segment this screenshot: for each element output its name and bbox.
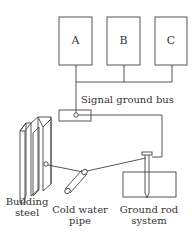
- cold-water-pipe-label-2: pipe: [50, 215, 110, 226]
- box-c-label: C: [155, 35, 187, 46]
- building-steel-label-2: steel: [4, 207, 50, 218]
- cold-water-pipe-icon: [64, 168, 89, 195]
- ground-rod-box: [123, 172, 176, 197]
- box-b-label: B: [107, 35, 140, 46]
- building-steel-label-1: Building: [4, 196, 50, 207]
- box-a-label: A: [59, 35, 92, 46]
- cold-water-pipe-label-1: Cold water: [50, 204, 110, 215]
- ground-rod-label-1: Ground rod: [118, 204, 180, 215]
- signal-ground-bus-label: Signal ground bus: [81, 94, 174, 105]
- building-steel-icon: [20, 117, 51, 203]
- ground-rod-label-2: system: [118, 215, 180, 226]
